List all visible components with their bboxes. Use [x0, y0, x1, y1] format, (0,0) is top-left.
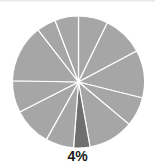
highlight-percent-label: 4%: [0, 148, 155, 164]
pie-chart: [0, 0, 155, 167]
